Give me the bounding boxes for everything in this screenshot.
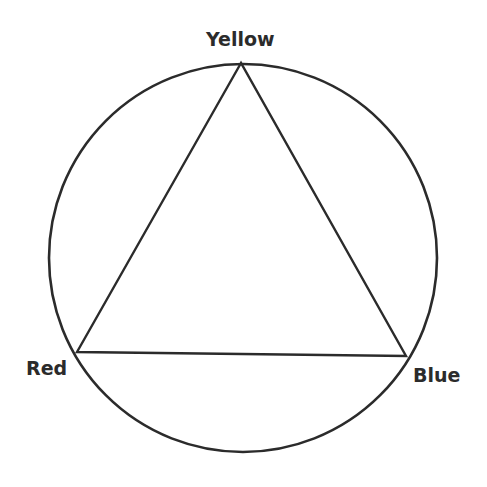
- label-red: Red: [26, 357, 67, 379]
- label-yellow: Yellow: [206, 28, 275, 50]
- inner-triangle: [77, 63, 406, 356]
- outer-circle: [49, 64, 437, 452]
- color-triangle-diagram: [0, 0, 487, 487]
- diagram-canvas: Yellow Red Blue: [0, 0, 487, 487]
- label-blue: Blue: [413, 364, 460, 386]
